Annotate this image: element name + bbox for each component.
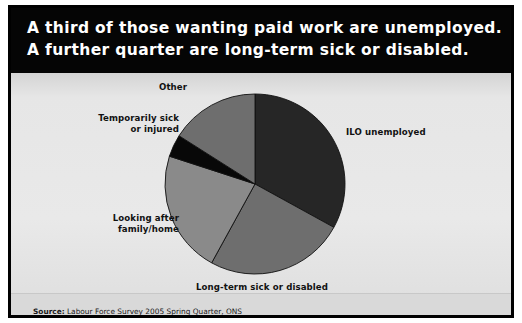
slice-label-looking-after-line1: Looking after: [71, 213, 179, 224]
slice-label-temporarily-sick-line2: or injured: [69, 124, 179, 135]
slice-label-temporarily-sick-line1: Temporarily sick: [69, 113, 179, 124]
source-note: Source: Labour Force Survey 2005 Spring …: [11, 293, 511, 315]
title-line-1: A third of those wanting paid work are u…: [27, 17, 511, 39]
title-line-2: A further quarter are long-term sick or …: [27, 39, 511, 61]
source-text: Labour Force Survey 2005 Spring Quarter,…: [65, 307, 242, 316]
pie-chart: [11, 73, 514, 315]
slice-label-ilo-unemployed: ILO unemployed: [346, 127, 426, 138]
slice-label-looking-after: Looking after family/home: [71, 213, 179, 235]
slice-label-other: Other: [159, 82, 187, 93]
chart-plate: ILO unemployed Other Temporarily sick or…: [11, 73, 511, 315]
figure-panel: A third of those wanting paid work are u…: [8, 5, 514, 318]
source-keyword: Source:: [33, 307, 65, 316]
pie-slices: [165, 94, 345, 274]
pie-svg: [11, 73, 514, 315]
slice-label-long-term-sick: Long-term sick or disabled: [196, 282, 328, 293]
slice-label-looking-after-line2: family/home: [71, 224, 179, 235]
figure-header: A third of those wanting paid work are u…: [11, 8, 511, 73]
slice-label-temporarily-sick: Temporarily sick or injured: [69, 113, 179, 135]
